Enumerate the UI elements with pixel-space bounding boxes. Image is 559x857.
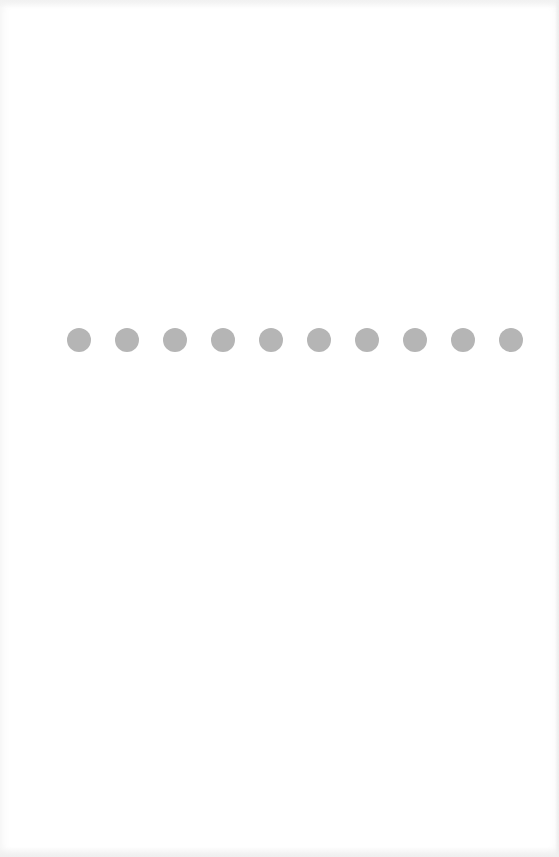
loading-dot-icon [451, 328, 475, 352]
loading-dot-icon [115, 328, 139, 352]
loading-dot-icon [307, 328, 331, 352]
loading-dot-icon [355, 328, 379, 352]
loading-dot-icon [211, 328, 235, 352]
loading-dot-icon [259, 328, 283, 352]
loading-dot-icon [67, 328, 91, 352]
loading-indicator [67, 328, 523, 352]
page-edge-top [0, 0, 559, 8]
loading-dot-icon [163, 328, 187, 352]
blank-page [0, 0, 559, 857]
page-edge-right [555, 0, 559, 857]
loading-dot-icon [403, 328, 427, 352]
loading-dot-icon [499, 328, 523, 352]
page-edge-bottom [0, 847, 559, 857]
